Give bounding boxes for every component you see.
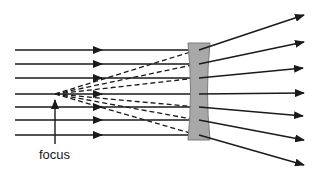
virtual-ray (55, 50, 197, 94)
virtual-ray (55, 94, 197, 107)
refracted-ray (199, 107, 303, 116)
refracted-rays (199, 15, 304, 165)
concave-lens (188, 43, 210, 140)
lens-diagram: focus (0, 0, 321, 178)
virtual-ray (55, 94, 197, 135)
virtual-rays-dashed (55, 50, 197, 135)
refracted-ray (199, 93, 304, 94)
refracted-ray (199, 135, 304, 165)
refracted-ray (199, 68, 303, 78)
refracted-ray (199, 120, 304, 140)
virtual-ray (55, 78, 197, 94)
lens-shape (188, 43, 210, 140)
incident-rays (15, 50, 199, 135)
focus-label: focus (39, 147, 70, 162)
virtual-ray (55, 64, 197, 94)
